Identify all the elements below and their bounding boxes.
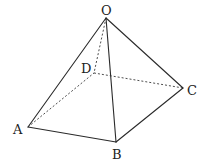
vertex-label-b: B [112, 147, 122, 162]
edge-ob [106, 18, 116, 142]
edge-ab [28, 127, 116, 142]
vertex-label-a: A [12, 122, 23, 137]
vertex-label-d: D [81, 61, 91, 76]
edge-bc [116, 88, 183, 142]
edge-oc [106, 18, 183, 88]
pyramid-diagram: O A B C D [0, 0, 205, 166]
visible-edges [28, 18, 183, 142]
edge-oa [28, 18, 106, 127]
hidden-edges [28, 18, 183, 127]
vertex-label-c: C [187, 83, 197, 98]
vertex-label-o: O [101, 3, 112, 18]
